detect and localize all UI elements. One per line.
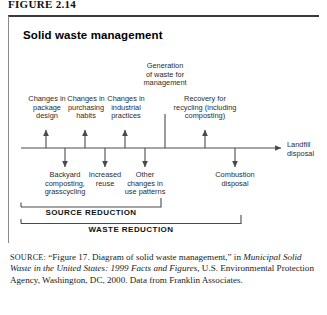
- label-landfill-disposal: Landfill disposal: [287, 141, 327, 158]
- source-note-prefix: SOURCE:: [10, 253, 46, 262]
- label-combustion-disposal: Combustion disposal: [205, 171, 265, 188]
- source-note: SOURCE: “Figure 17. Diagram of solid was…: [10, 252, 320, 286]
- label-recovery-recycling: Recovery for recycling (including compos…: [161, 95, 249, 121]
- label-use-patterns: Other changes in use patterns: [117, 171, 173, 197]
- bracket-label-source-reduction: SOURCE REDUCTION: [21, 208, 161, 217]
- figure-panel: Solid waste management Changes in packag…: [8, 15, 319, 243]
- source-note-quoted-title: “Figure 17. Diagram of solid waste manag…: [48, 252, 241, 262]
- label-industrial-practices: Changes in industrial practices: [97, 95, 155, 121]
- bracket-label-waste-reduction: WASTE REDUCTION: [21, 225, 241, 234]
- source-reduction-bracket: [21, 198, 161, 207]
- label-generation-of-waste: Generation of waste for management: [136, 62, 194, 88]
- figure-number: FIGURE 2.14: [8, 0, 76, 10]
